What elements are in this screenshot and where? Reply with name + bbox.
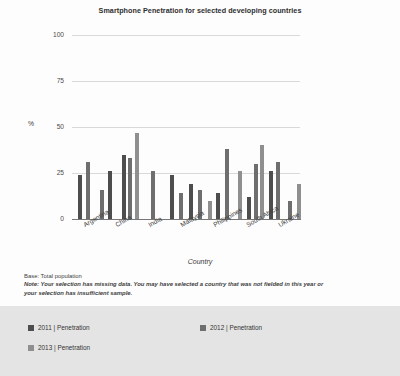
legend-swatch-icon bbox=[200, 325, 206, 331]
y-tick-label: 0 bbox=[42, 215, 64, 222]
bar bbox=[122, 155, 126, 219]
bar-series-layer bbox=[72, 35, 300, 219]
y-tick-label: 100 bbox=[42, 31, 64, 38]
y-tick-label: 75 bbox=[42, 77, 64, 84]
bar bbox=[208, 201, 212, 219]
y-axis-label: % bbox=[28, 120, 34, 127]
legend-item[interactable]: 2013 | Penetration bbox=[28, 344, 90, 351]
bar bbox=[170, 175, 174, 219]
bar bbox=[225, 149, 229, 219]
legend-label: 2012 | Penetration bbox=[210, 324, 262, 331]
bar bbox=[86, 162, 90, 219]
footnotes: Base: Total population Note: Your select… bbox=[24, 272, 324, 297]
bar bbox=[179, 193, 183, 219]
bar bbox=[216, 193, 220, 219]
legend-swatch-icon bbox=[28, 325, 34, 331]
page-title: Smartphone Penetration for selected deve… bbox=[0, 6, 400, 15]
bar bbox=[151, 171, 155, 219]
bar bbox=[247, 197, 251, 219]
chart-page: Smartphone Penetration for selected deve… bbox=[0, 0, 400, 376]
footnote-note: Note: Your selection has missing data. Y… bbox=[24, 280, 324, 297]
y-tick-label: 25 bbox=[42, 169, 64, 176]
legend-swatch-icon bbox=[28, 345, 34, 351]
legend-label: 2013 | Penetration bbox=[38, 344, 90, 351]
bar bbox=[128, 158, 132, 219]
legend-label: 2011 | Penetration bbox=[38, 324, 90, 331]
legend-item[interactable]: 2011 | Penetration bbox=[28, 324, 90, 331]
bar bbox=[260, 145, 264, 219]
chart-legend: 2011 | Penetration2012 | Penetration2013… bbox=[0, 306, 400, 376]
y-tick-label: 50 bbox=[42, 123, 64, 130]
bar bbox=[78, 175, 82, 219]
legend-item[interactable]: 2012 | Penetration bbox=[200, 324, 262, 331]
footnote-base: Base: Total population bbox=[24, 272, 324, 280]
bar bbox=[254, 164, 258, 219]
bar bbox=[135, 133, 139, 219]
x-axis-label: Country bbox=[0, 258, 400, 265]
